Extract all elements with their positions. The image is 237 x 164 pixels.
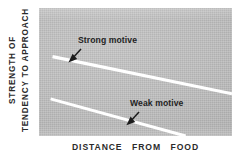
y-axis-label-line-2: TENDENCY TO APPROACH (19, 8, 32, 132)
x-axis-label-word-1: DISTANCE (72, 142, 123, 152)
weak-motive-annotation-label: Weak motive (130, 98, 183, 108)
y-axis-label-line-1: STRENGTH OF (6, 8, 19, 132)
y-axis-label: STRENGTH OF TENDENCY TO APPROACH (0, 0, 38, 140)
figure-gradient-of-approach: STRENGTH OF TENDENCY TO APPROACH Strong … (0, 0, 237, 164)
plot-panel: Strong motive Weak motive (39, 8, 232, 136)
strong-motive-annotation-label: Strong motive (78, 35, 137, 45)
x-axis-label-word-2: FROM (132, 142, 161, 152)
strong-motive-line (53, 57, 232, 94)
x-axis-label: DISTANCE FROM FOOD (39, 142, 232, 152)
y-axis-label-rotated-text: STRENGTH OF TENDENCY TO APPROACH (6, 8, 32, 132)
x-axis-label-word-3: FOOD (171, 142, 199, 152)
plot-lines-svg (39, 8, 232, 136)
